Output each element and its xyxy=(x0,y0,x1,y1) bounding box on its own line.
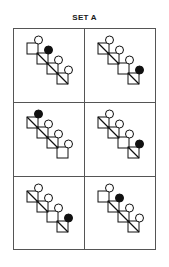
generation-1 xyxy=(27,36,43,54)
generation-2 xyxy=(108,120,124,138)
generation-3 xyxy=(118,204,134,222)
deceased-diagonal-icon xyxy=(128,221,139,232)
deceased-diagonal-icon xyxy=(118,211,129,222)
deceased-diagonal-icon xyxy=(108,127,119,138)
generation-4 xyxy=(128,66,144,84)
generation-4 xyxy=(128,214,144,232)
affected-female-circle-icon xyxy=(35,110,43,118)
female-circle-icon xyxy=(55,130,63,138)
deceased-diagonal-icon xyxy=(37,53,48,64)
generation-2 xyxy=(37,46,53,64)
pedigree-cell xyxy=(14,177,85,250)
generation-1 xyxy=(98,110,114,128)
generation-4 xyxy=(57,66,73,84)
deceased-diagonal-icon xyxy=(37,127,48,138)
pedigree-diagram xyxy=(14,177,85,251)
generation-1 xyxy=(27,184,43,202)
deceased-diagonal-icon xyxy=(37,201,48,212)
generation-3 xyxy=(47,204,63,222)
male-square-icon xyxy=(27,43,38,54)
generation-3 xyxy=(47,56,63,74)
generation-2 xyxy=(108,46,124,64)
affected-female-circle-icon xyxy=(116,194,124,202)
female-circle-icon xyxy=(35,36,43,44)
generation-1 xyxy=(98,184,114,202)
female-circle-icon xyxy=(35,184,43,192)
generation-4 xyxy=(57,140,73,158)
affected-female-circle-icon xyxy=(65,214,73,222)
pedigree-diagram xyxy=(85,29,156,103)
generation-2 xyxy=(108,194,124,212)
female-circle-icon xyxy=(65,66,73,74)
generation-1 xyxy=(98,36,114,54)
male-square-icon xyxy=(98,191,109,202)
affected-female-circle-icon xyxy=(45,46,53,54)
deceased-diagonal-icon xyxy=(57,73,68,84)
female-circle-icon xyxy=(136,214,144,222)
pedigree-diagram xyxy=(85,177,156,251)
male-square-icon xyxy=(118,63,129,74)
male-square-icon xyxy=(57,147,68,158)
female-circle-icon xyxy=(116,46,124,54)
pedigree-diagram xyxy=(14,29,85,103)
deceased-diagonal-icon xyxy=(128,73,139,84)
deceased-diagonal-icon xyxy=(128,147,139,158)
female-circle-icon xyxy=(126,204,134,212)
pedigree-diagram xyxy=(85,103,156,177)
deceased-diagonal-icon xyxy=(27,117,38,128)
deceased-diagonal-icon xyxy=(108,201,119,212)
generation-3 xyxy=(118,130,134,148)
female-circle-icon xyxy=(45,194,53,202)
female-circle-icon xyxy=(106,110,114,118)
deceased-diagonal-icon xyxy=(98,117,109,128)
pedigree-cell xyxy=(85,29,156,103)
pedigree-cell xyxy=(85,177,156,250)
deceased-diagonal-icon xyxy=(57,221,68,232)
generation-4 xyxy=(128,140,144,158)
pedigree-grid xyxy=(13,28,156,250)
female-circle-icon xyxy=(106,36,114,44)
female-circle-icon xyxy=(55,56,63,64)
female-circle-icon xyxy=(55,204,63,212)
female-circle-icon xyxy=(126,56,134,64)
pedigree-cell xyxy=(14,103,85,177)
male-square-icon xyxy=(47,211,58,222)
deceased-diagonal-icon xyxy=(47,137,58,148)
deceased-diagonal-icon xyxy=(108,53,119,64)
deceased-diagonal-icon xyxy=(27,191,38,202)
generation-1 xyxy=(27,110,43,128)
deceased-diagonal-icon xyxy=(98,43,109,54)
male-square-icon xyxy=(118,137,129,148)
female-circle-icon xyxy=(126,130,134,138)
female-circle-icon xyxy=(116,120,124,128)
generation-2 xyxy=(37,120,53,138)
pedigree-cell xyxy=(14,29,85,103)
female-circle-icon xyxy=(45,120,53,128)
affected-female-circle-icon xyxy=(136,140,144,148)
generation-3 xyxy=(47,130,63,148)
affected-female-circle-icon xyxy=(136,66,144,74)
pedigree-diagram xyxy=(14,103,85,177)
deceased-diagonal-icon xyxy=(47,63,58,74)
generation-4 xyxy=(57,214,73,232)
female-circle-icon xyxy=(106,184,114,192)
pedigree-cell xyxy=(85,103,156,177)
set-title: SET A xyxy=(0,13,169,22)
female-circle-icon xyxy=(65,140,73,148)
generation-3 xyxy=(118,56,134,74)
generation-2 xyxy=(37,194,53,212)
